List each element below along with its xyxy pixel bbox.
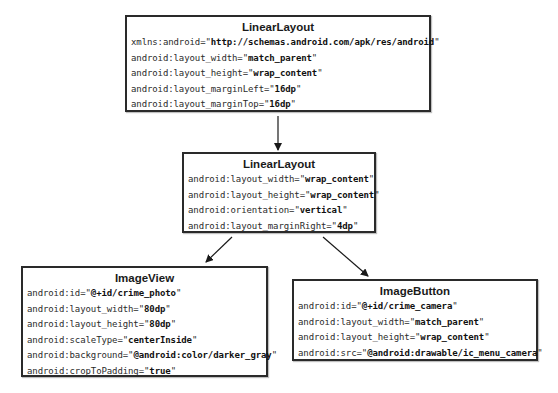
node-title: LinearLayout	[131, 19, 425, 35]
attribute-line: android:scaleType="centerInside"	[27, 333, 262, 349]
node-title: ImageView	[27, 270, 262, 286]
attribute-line: android:layout_marginTop="16dp"	[131, 97, 425, 113]
attribute-value: wrap_content	[253, 68, 317, 78]
attribute-value: vertical	[300, 205, 343, 215]
edge-child-to-imageview	[206, 237, 232, 262]
attribute-key: android:id=	[298, 301, 357, 311]
attribute-value: @+id/crime_photo	[91, 288, 176, 298]
attribute-key: android:src=	[298, 348, 362, 358]
attribute-line: android:layout_height="wrap_content"	[188, 188, 370, 204]
attribute-value: wrap_content	[305, 174, 369, 184]
attribute-value: @android:drawable/ic_menu_camera	[367, 348, 537, 358]
attribute-value: 80dp	[144, 304, 165, 314]
attribute-line: android:layout_marginLeft="16dp"	[131, 82, 425, 98]
attribute-key: android:layout_width=	[27, 304, 139, 314]
attribute-key: android:layout_marginTop=	[131, 99, 264, 109]
attribute-key: android:layout_height=	[27, 319, 144, 329]
attribute-line: android:layout_width="match_parent"	[131, 51, 425, 67]
node-title: LinearLayout	[188, 156, 370, 172]
attribute-line: android:background="@android:color/darke…	[27, 348, 262, 364]
attribute-key: android:layout_height=	[298, 332, 415, 342]
node-root-linear-layout: LinearLayout xmlns:android="http://schem…	[125, 15, 431, 112]
edge-child-to-imagebutton	[323, 237, 368, 276]
attribute-key: android:layout_width=	[298, 317, 410, 327]
attribute-value: true	[149, 366, 170, 376]
attribute-key: android:layout_width=	[131, 53, 243, 63]
attribute-value: wrap_content	[420, 332, 484, 342]
attribute-line: android:layout_height="wrap_content"	[131, 66, 425, 82]
attribute-key: android:background=	[27, 350, 128, 360]
node-image-button: ImageButton android:id="@+id/crime_camer…	[292, 279, 538, 361]
attribute-key: android:layout_marginRight=	[188, 221, 332, 231]
attribute-key: android:layout_height=	[131, 68, 248, 78]
attribute-value: wrap_content	[310, 190, 374, 200]
attribute-line: android:orientation="vertical"	[188, 203, 370, 219]
attribute-key: android:cropToPadding=	[27, 366, 144, 376]
attribute-value: 4dp	[337, 221, 353, 231]
attribute-line: android:layout_height="wrap_content"	[298, 330, 532, 346]
attribute-value: 80dp	[149, 319, 170, 329]
attribute-key: xmlns:android=	[131, 37, 205, 47]
attribute-line: android:id="@+id/crime_photo"	[27, 286, 262, 302]
attribute-line: android:layout_width="match_parent"	[298, 315, 532, 331]
node-image-view: ImageView android:id="@+id/crime_photo" …	[21, 266, 268, 377]
attribute-value: @android:color/darker_gray	[133, 350, 271, 360]
attribute-line: android:layout_height="80dp"	[27, 317, 262, 333]
attribute-key: android:scaleType=	[27, 335, 123, 345]
attribute-value: centerInside	[128, 335, 192, 345]
attribute-key: android:layout_marginLeft=	[131, 84, 269, 94]
node-child-linear-layout: LinearLayout android:layout_width="wrap_…	[182, 152, 376, 233]
attribute-key: android:layout_height=	[188, 190, 305, 200]
node-title: ImageButton	[298, 283, 532, 299]
attribute-line: android:cropToPadding="true"	[27, 364, 262, 380]
attribute-key: android:id=	[27, 288, 86, 298]
attribute-line: android:layout_width="wrap_content"	[188, 172, 370, 188]
attribute-line: android:layout_width="80dp"	[27, 302, 262, 318]
attribute-value: match_parent	[248, 53, 312, 63]
attribute-value: http://schemas.android.com/apk/res/andro…	[211, 37, 434, 47]
attribute-line: android:layout_marginRight="4dp"	[188, 219, 370, 235]
attribute-value: 16dp	[269, 99, 290, 109]
attribute-value: @+id/crime_camera	[362, 301, 452, 311]
attribute-line: android:src="@android:drawable/ic_menu_c…	[298, 346, 532, 362]
attribute-line: android:id="@+id/crime_camera"	[298, 299, 532, 315]
attribute-value: match_parent	[415, 317, 479, 327]
attribute-value: 16dp	[275, 84, 296, 94]
attribute-key: android:layout_width=	[188, 174, 300, 184]
attribute-key: android:orientation=	[188, 205, 294, 215]
attribute-line: xmlns:android="http://schemas.android.co…	[131, 35, 425, 51]
